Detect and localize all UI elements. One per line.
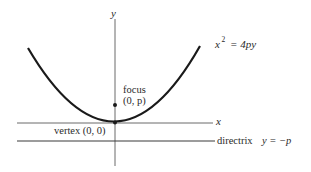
vertex-label: vertex (0, 0) [54, 125, 106, 137]
parabola-curve [28, 46, 200, 122]
equation-base: x [214, 38, 220, 50]
parabola-diagram: y x x 2 = 4py focus (0, p) vertex (0, 0)… [0, 0, 311, 172]
x-axis-label: x [215, 115, 221, 127]
vertex-point [113, 121, 117, 125]
focus-label: focus [123, 84, 146, 95]
directrix-label: directrix [217, 135, 253, 146]
focus-point [113, 103, 117, 107]
focus-coords: (0, p) [123, 95, 146, 107]
equation-rhs: = 4py [230, 38, 256, 50]
y-axis-label: y [110, 7, 116, 19]
directrix-equation: y = −p [261, 135, 291, 146]
equation-exponent: 2 [222, 35, 226, 44]
